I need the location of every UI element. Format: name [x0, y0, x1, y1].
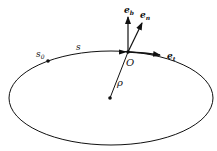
origin-point	[126, 50, 130, 54]
tangent-segment	[128, 52, 160, 55]
center-point	[108, 96, 112, 100]
arc-direction-arrowhead	[119, 50, 127, 55]
origin-label: O	[126, 57, 134, 68]
frenet-diagram: eb en et O ρ s s0	[0, 0, 217, 151]
arc-length-label: s	[76, 42, 81, 52]
normal-vector	[128, 23, 142, 52]
start-point	[46, 59, 50, 63]
tangent-label: et	[167, 51, 176, 62]
radius-label: ρ	[116, 77, 123, 88]
binormal-label: eb	[124, 5, 134, 16]
normal-label: en	[140, 10, 150, 21]
start-label: s0	[36, 49, 45, 60]
